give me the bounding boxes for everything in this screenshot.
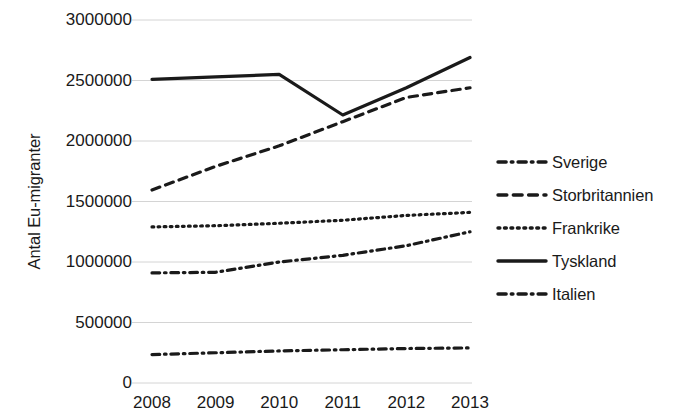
plot-area bbox=[132, 12, 472, 391]
legend-item-sverige[interactable]: Sverige bbox=[496, 145, 677, 178]
plot-svg bbox=[132, 12, 472, 391]
series-line-storbritannien bbox=[152, 88, 470, 190]
chart-container: Antal Eu-migranter 300000025000002000000… bbox=[0, 0, 677, 417]
x-axis-tick-label: 2013 bbox=[435, 392, 505, 413]
legend-item-storbritannien[interactable]: Storbritannien bbox=[496, 178, 677, 211]
y-axis-tick-label: 1500000 bbox=[22, 193, 132, 210]
x-axis-tick-label: 2011 bbox=[308, 392, 378, 413]
x-axis-tick-label: 2008 bbox=[117, 392, 187, 413]
legend-label: Frankrike bbox=[552, 219, 620, 237]
legend-swatch-storbritannien-icon bbox=[496, 188, 548, 202]
chart-legend: SverigeStorbritannienFrankrikeTysklandIt… bbox=[496, 145, 677, 310]
series-line-frankrike bbox=[152, 212, 470, 227]
legend-label: Storbritannien bbox=[552, 186, 653, 204]
x-axis-tick-label: 2010 bbox=[244, 392, 314, 413]
y-axis-tick-label: 1000000 bbox=[22, 253, 132, 270]
series-line-tyskland bbox=[152, 58, 470, 115]
legend-label: Sverige bbox=[552, 153, 607, 171]
series-line-sverige bbox=[152, 348, 470, 355]
y-axis-tick-label: 2000000 bbox=[22, 132, 132, 149]
y-axis-tick-label: 500000 bbox=[22, 314, 132, 331]
y-axis-tick-label: 3000000 bbox=[22, 11, 132, 28]
x-axis-tick-label: 2009 bbox=[181, 392, 251, 413]
legend-swatch-sverige-icon bbox=[496, 155, 548, 169]
legend-item-italien[interactable]: Italien bbox=[496, 277, 677, 310]
x-axis-tick-labels: 200820092010201120122013 bbox=[132, 392, 472, 417]
series-line-italien bbox=[152, 232, 470, 273]
y-axis-tick-label: 0 bbox=[22, 374, 132, 391]
legend-item-frankrike[interactable]: Frankrike bbox=[496, 211, 677, 244]
legend-swatch-frankrike-icon bbox=[496, 221, 548, 235]
legend-label: Italien bbox=[552, 285, 595, 303]
y-axis-tick-labels: 3000000250000020000001500000100000050000… bbox=[22, 0, 132, 417]
legend-item-tyskland[interactable]: Tyskland bbox=[496, 244, 677, 277]
x-axis-tick-label: 2012 bbox=[371, 392, 441, 413]
legend-label: Tyskland bbox=[552, 252, 616, 270]
y-axis-tick-label: 2500000 bbox=[22, 72, 132, 89]
legend-swatch-italien-icon bbox=[496, 287, 548, 301]
legend-swatch-tyskland-icon bbox=[496, 254, 548, 268]
